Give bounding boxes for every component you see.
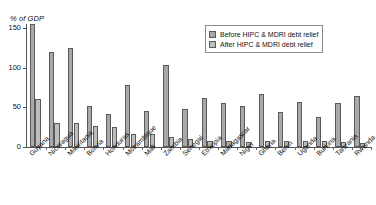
legend-label-after: After HIPC & MDRI debt relief <box>220 40 313 49</box>
y-tick-mark <box>23 28 26 29</box>
y-tick-mark <box>23 68 26 69</box>
legend-item-before: Before HIPC & MDRI debt relief <box>209 29 318 39</box>
y-tick-label: 100 <box>0 63 21 72</box>
x-tick-mark <box>199 147 200 150</box>
legend-swatch-after-icon <box>209 41 216 48</box>
bar-chart: % of GDP 050100150 GuyanaNicaraguaMaurit… <box>0 0 376 205</box>
x-tick-mark <box>333 147 334 150</box>
x-tick-mark <box>275 147 276 150</box>
x-tick-mark <box>295 147 296 150</box>
x-tick-mark <box>161 147 162 150</box>
y-tick-label: 0 <box>0 142 21 151</box>
x-tick-mark <box>371 147 372 150</box>
bar-before <box>49 52 54 147</box>
x-tick-mark <box>46 147 47 150</box>
y-tick-label: 50 <box>0 102 21 111</box>
bar-before <box>297 102 302 147</box>
legend-swatch-before-icon <box>209 31 216 38</box>
bar-before <box>30 24 35 147</box>
bar-before <box>106 114 111 147</box>
y-tick-mark <box>23 147 26 148</box>
x-tick-mark <box>352 147 353 150</box>
x-tick-mark <box>103 147 104 150</box>
bar-before <box>163 65 168 147</box>
x-tick-mark <box>84 147 85 150</box>
x-tick-mark <box>65 147 66 150</box>
bar-before <box>182 109 187 147</box>
legend-item-after: After HIPC & MDRI debt relief <box>209 39 318 49</box>
x-tick-mark <box>237 147 238 150</box>
y-tick-mark <box>23 107 26 108</box>
chart-legend: Before HIPC & MDRI debt relief After HIP… <box>205 25 323 53</box>
x-tick-mark <box>314 147 315 150</box>
y-axis-title: % of GDP <box>10 14 44 23</box>
bar-before <box>278 112 283 147</box>
y-axis-line <box>26 24 27 148</box>
bar-before <box>87 106 92 147</box>
x-tick-mark <box>256 147 257 150</box>
bar-before <box>259 94 264 147</box>
legend-label-before: Before HIPC & MDRI debt relief <box>220 30 318 39</box>
y-tick-label: 150 <box>0 23 21 32</box>
x-tick-mark <box>142 147 143 150</box>
x-tick-mark <box>218 147 219 150</box>
x-tick-mark <box>123 147 124 150</box>
x-tick-mark <box>180 147 181 150</box>
bar-before <box>316 117 321 147</box>
